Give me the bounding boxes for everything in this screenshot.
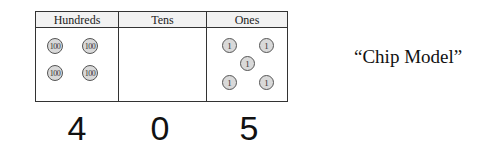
one-chip: 1 — [240, 56, 255, 71]
hundreds-column: Hundreds 100 100 100 100 — [36, 12, 118, 101]
one-chip: 1 — [222, 75, 237, 90]
chip-model-caption: “Chip Model” — [354, 46, 462, 68]
tens-column: Tens — [118, 12, 206, 101]
one-chip: 1 — [259, 75, 274, 90]
one-chip: 1 — [222, 38, 237, 53]
ones-column: Ones 1 1 1 1 1 — [206, 12, 287, 101]
ones-header: Ones — [207, 12, 287, 28]
place-value-table: Hundreds 100 100 100 100 Tens Ones 1 1 1… — [35, 11, 288, 102]
one-chip: 1 — [259, 38, 274, 53]
hundred-chip: 100 — [47, 65, 63, 81]
hundred-chip: 100 — [82, 38, 98, 54]
hundred-chip: 100 — [82, 65, 98, 81]
tens-digit: 0 — [140, 111, 180, 145]
hundred-chip: 100 — [47, 38, 63, 54]
hundreds-header: Hundreds — [36, 12, 118, 28]
hundreds-digit: 4 — [57, 111, 97, 145]
tens-header: Tens — [119, 12, 206, 28]
ones-digit: 5 — [229, 111, 269, 145]
